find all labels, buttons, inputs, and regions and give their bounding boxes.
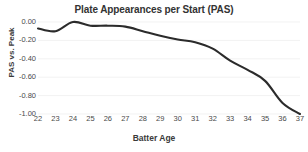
x-axis-tick-label: 23 (46, 114, 64, 124)
y-axis-tick-label: 0.00 (12, 18, 36, 26)
x-axis-tick-label: 32 (204, 114, 222, 124)
x-axis-tick-label: 27 (116, 114, 134, 124)
x-axis-tick-label: 33 (221, 114, 239, 124)
y-axis-tick-label: -0.60 (12, 73, 36, 81)
y-axis-tick-label: -0.40 (12, 55, 36, 63)
gridlines (38, 22, 300, 114)
plot-svg (38, 22, 300, 114)
x-axis-tick-label: 26 (99, 114, 117, 124)
x-axis-tick-label: 34 (239, 114, 257, 124)
x-axis-tick-label: 36 (274, 114, 292, 124)
y-axis-tick-labels: 0.00-0.20-0.40-0.60-0.80-1.00 (12, 18, 36, 114)
x-axis-tick-labels: 22232425262728293031323334353637 (0, 114, 308, 126)
x-axis-title: Batter Age (0, 133, 308, 143)
chart-container: Plate Appearances per Start (PAS) PAS vs… (0, 0, 308, 152)
y-axis-tick-label: -0.20 (12, 36, 36, 44)
x-axis-tick-label: 24 (64, 114, 82, 124)
x-axis-tick-label: 29 (151, 114, 169, 124)
x-axis-tick-label: 37 (291, 114, 308, 124)
y-axis-tick-label: -0.80 (12, 92, 36, 100)
plot-area (38, 22, 300, 114)
x-axis-tick-label: 28 (134, 114, 152, 124)
x-axis-tick-label: 35 (256, 114, 274, 124)
x-axis-tick-label: 30 (169, 114, 187, 124)
chart-title: Plate Appearances per Start (PAS) (0, 4, 308, 15)
x-axis-tick-label: 31 (186, 114, 204, 124)
data-series-line (38, 22, 300, 114)
x-axis-tick-label: 25 (81, 114, 99, 124)
x-axis-tick-label: 22 (29, 114, 47, 124)
